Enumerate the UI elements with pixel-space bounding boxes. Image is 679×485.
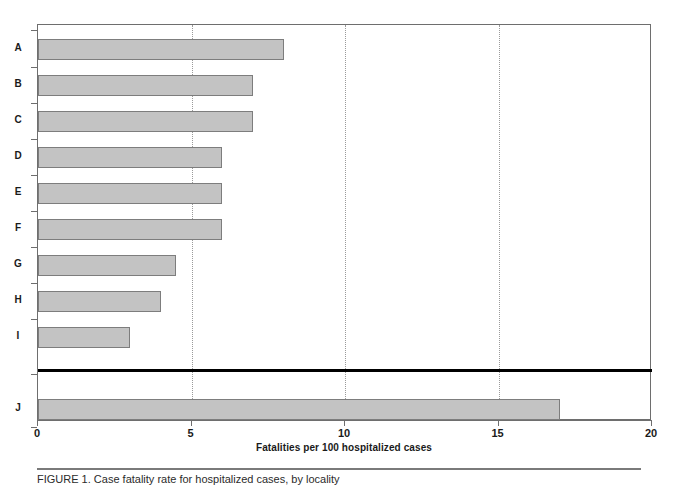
bar-d[interactable] bbox=[38, 147, 222, 168]
x-axis-tick-10 bbox=[344, 420, 345, 426]
x-axis-tick-label-15: 15 bbox=[478, 427, 518, 439]
bar-row bbox=[38, 291, 652, 312]
category-label-d: D bbox=[3, 150, 33, 161]
y-axis-tick bbox=[31, 319, 37, 320]
group-separator-line bbox=[38, 369, 652, 372]
category-label-f: F bbox=[3, 222, 33, 233]
figure-caption: FIGURE 1. Case fatality rate for hospita… bbox=[37, 473, 641, 485]
bar-row bbox=[38, 399, 652, 420]
bar-i[interactable] bbox=[38, 327, 130, 348]
bar-f[interactable] bbox=[38, 219, 222, 240]
x-axis-tick-15 bbox=[498, 420, 499, 426]
x-axis-title: Fatalities per 100 hospitalized cases bbox=[37, 442, 651, 453]
category-label-i: I bbox=[3, 330, 33, 341]
y-axis-tick bbox=[31, 139, 37, 140]
x-axis-tick-label-20: 20 bbox=[631, 427, 671, 439]
bar-g[interactable] bbox=[38, 255, 176, 276]
y-axis-tick bbox=[31, 211, 37, 212]
y-axis-tick bbox=[31, 67, 37, 68]
bar-row bbox=[38, 219, 652, 240]
category-label-b: B bbox=[3, 78, 33, 89]
bar-row bbox=[38, 39, 652, 60]
category-label-a: A bbox=[3, 42, 33, 53]
bar-row bbox=[38, 255, 652, 276]
bar-row bbox=[38, 75, 652, 96]
bar-row bbox=[38, 111, 652, 132]
category-label-h: H bbox=[3, 294, 33, 305]
bar-j[interactable] bbox=[38, 399, 560, 420]
y-axis-tick bbox=[31, 374, 37, 375]
bar-h[interactable] bbox=[38, 291, 161, 312]
x-axis-tick-5 bbox=[191, 420, 192, 426]
bar-e[interactable] bbox=[38, 183, 222, 204]
x-axis-tick-label-0: 0 bbox=[17, 427, 57, 439]
plot-area bbox=[38, 25, 650, 419]
plot-frame bbox=[37, 24, 651, 420]
category-label-e: E bbox=[3, 186, 33, 197]
caption-rule bbox=[37, 468, 641, 470]
y-axis-tick bbox=[31, 175, 37, 176]
x-axis-tick-0 bbox=[37, 420, 38, 426]
category-label-c: C bbox=[3, 114, 33, 125]
bar-c[interactable] bbox=[38, 111, 253, 132]
category-label-j: J bbox=[3, 402, 33, 413]
bar-b[interactable] bbox=[38, 75, 253, 96]
y-axis-tick bbox=[31, 30, 37, 31]
bar-a[interactable] bbox=[38, 39, 284, 60]
y-axis-tick bbox=[31, 247, 37, 248]
bar-row bbox=[38, 147, 652, 168]
x-axis-tick-20 bbox=[651, 420, 652, 426]
y-axis-tick bbox=[31, 103, 37, 104]
category-label-g: G bbox=[3, 258, 33, 269]
bar-row bbox=[38, 327, 652, 348]
y-axis-tick bbox=[31, 283, 37, 284]
x-axis-tick-label-5: 5 bbox=[171, 427, 211, 439]
bar-row bbox=[38, 183, 652, 204]
x-axis-tick-label-10: 10 bbox=[324, 427, 364, 439]
